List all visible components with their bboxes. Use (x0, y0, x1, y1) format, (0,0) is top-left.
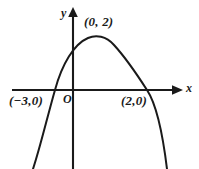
right-root-point-label: (2,0) (121, 94, 147, 107)
left-root-point-label: (−3,0) (9, 94, 43, 107)
origin-label: O (63, 93, 72, 105)
parabola-figure: y x O (0, 2) (−3,0) (2,0) (0, 0, 199, 169)
x-axis-arrow-icon (172, 85, 183, 95)
vertex-point-label: (0, 2) (84, 15, 113, 28)
y-axis-label: y (61, 7, 67, 19)
y-axis-arrow-icon (68, 7, 78, 17)
x-axis-label: x (186, 82, 192, 94)
